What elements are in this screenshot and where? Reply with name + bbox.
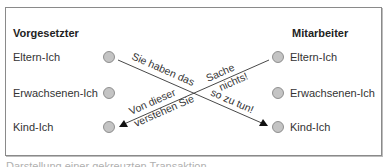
right-erwachsenen-circle-icon xyxy=(273,88,284,99)
transaction-diagram: Sie haben das so zu tun! Sache nichts! V… xyxy=(0,0,389,167)
right-kind-circle-icon xyxy=(273,122,284,133)
left-kind-circle-icon xyxy=(104,122,115,133)
figure-caption: Darstellung einer gekreuzten Transaktion xyxy=(6,160,207,167)
transaction-1-label-part1: Sie haben das xyxy=(130,50,196,88)
left-eltern-circle-icon xyxy=(104,52,115,63)
transaction-1-label-part2: so zu tun! xyxy=(209,86,256,115)
right-eltern-circle-icon xyxy=(273,52,284,63)
arrowhead-left-kind-icon xyxy=(119,120,128,127)
left-erwachsenen-circle-icon xyxy=(104,88,115,99)
